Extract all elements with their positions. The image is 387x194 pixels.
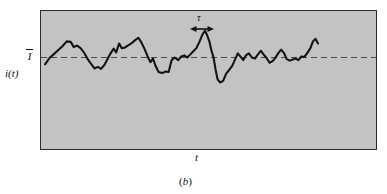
y-axis-label: i(t) <box>5 68 18 79</box>
figure-container: I i(t) τ t (b) <box>0 0 387 194</box>
mean-value-symbol: I <box>26 51 33 62</box>
x-axis-label: t <box>195 152 198 163</box>
tau-label: τ <box>197 13 201 23</box>
plot-frame <box>40 10 377 150</box>
caption-letter: b <box>183 175 189 187</box>
mean-value-label: I <box>26 49 33 62</box>
figure-caption: (b) <box>179 175 192 187</box>
